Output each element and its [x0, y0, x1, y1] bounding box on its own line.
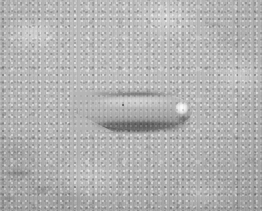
page-margin-right [262, 0, 266, 215]
page-margin-bottom [0, 211, 266, 215]
object-tip-specular-highlight [175, 101, 191, 118]
object-upper-flank-sheen [92, 97, 178, 106]
subject-object [78, 92, 192, 130]
photograph-image [0, 0, 262, 211]
photograph-figure [0, 0, 266, 215]
object-underside-shading [90, 121, 186, 129]
object-top-rim-shading [88, 92, 184, 96]
